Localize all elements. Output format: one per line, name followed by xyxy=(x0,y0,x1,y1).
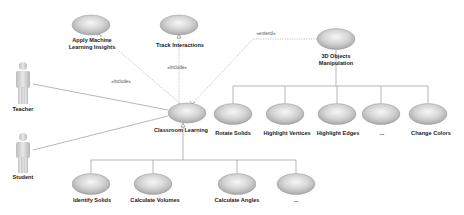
change-colors-label: Change Colors xyxy=(411,130,451,137)
rotate-solids-label: Rotate Solids xyxy=(215,130,251,137)
usecase-more-learning-ellipse[interactable] xyxy=(277,174,315,195)
more-manipulation-label: ... xyxy=(380,130,385,137)
usecase-3d-objects-ellipse[interactable] xyxy=(317,29,355,50)
3d-objects-label: 3D Objects Manipulation xyxy=(319,53,354,67)
highlight-vertices-label: Highlight Vertices xyxy=(263,130,310,137)
teacher-label: Teacher xyxy=(12,106,33,113)
include-label-apply-ml: «include» xyxy=(111,79,131,85)
usecase-classroom-learning-ellipse[interactable] xyxy=(168,103,206,123)
usecase-highlight-vertices-ellipse[interactable] xyxy=(266,104,304,125)
track-interactions-label: Track Interactions xyxy=(156,42,204,49)
usecase-apply-ml-ellipse[interactable] xyxy=(72,15,110,35)
use-case-diagram: Teacher Student «include» «include» «ext… xyxy=(0,0,464,215)
student-actor-icon[interactable] xyxy=(16,133,30,173)
apply-ml-label: Apply Machine Learning Insights xyxy=(69,37,116,51)
usecase-more-manipulation-ellipse[interactable] xyxy=(362,104,400,125)
association-teacher xyxy=(33,84,168,110)
teacher-actor-icon[interactable] xyxy=(16,62,30,104)
apply-ml-label-line1: Apply Machine xyxy=(69,37,116,44)
extend-3d xyxy=(192,39,317,104)
calculate-angles-label: Calculate Angles xyxy=(215,197,260,204)
highlight-edges-label: Highlight Edges xyxy=(317,130,360,137)
usecase-rotate-solids-ellipse[interactable] xyxy=(214,104,252,125)
extend-label: «extend» xyxy=(257,31,276,37)
diagram-connectors xyxy=(0,0,464,215)
usecase-identify-solids-ellipse[interactable] xyxy=(72,174,110,195)
calculate-volumes-label: Calculate Volumes xyxy=(130,197,179,204)
3d-objects-label-line1: 3D Objects xyxy=(319,53,354,60)
usecase-calculate-volumes-ellipse[interactable] xyxy=(134,174,172,195)
identify-solids-label: Identify Solids xyxy=(73,197,111,204)
student-label: Student xyxy=(13,174,34,181)
more-learning-label: ... xyxy=(294,197,299,204)
usecase-calculate-angles-ellipse[interactable] xyxy=(218,174,256,195)
usecase-highlight-edges-ellipse[interactable] xyxy=(318,104,356,125)
association-student xyxy=(33,116,168,150)
usecase-track-interactions-ellipse[interactable] xyxy=(160,15,198,35)
include-label-track: «include» xyxy=(167,65,187,71)
3d-objects-label-line2: Manipulation xyxy=(319,60,354,67)
apply-ml-label-line2: Learning Insights xyxy=(69,44,116,51)
classroom-learning-label: Classroom Learning xyxy=(154,127,208,134)
usecase-change-colors-ellipse[interactable] xyxy=(409,104,447,125)
